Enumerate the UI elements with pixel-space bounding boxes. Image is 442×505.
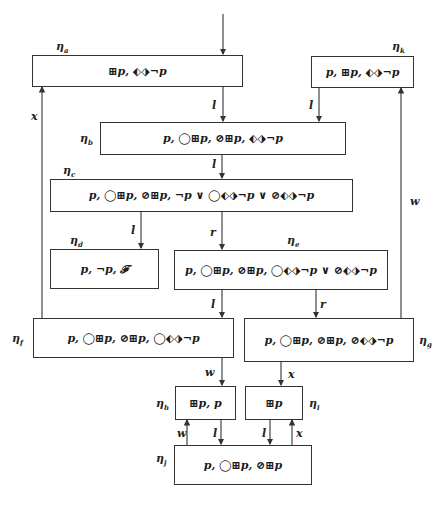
edge-label-e-f: l bbox=[211, 298, 215, 311]
node-j: p, ◯⊞p, ⊘⊞p bbox=[174, 445, 312, 485]
edge-label-a-b: l bbox=[212, 99, 216, 112]
node-d-formula: p, ¬p, 𝓕 bbox=[81, 263, 129, 276]
node-g-label: ηg bbox=[419, 334, 432, 349]
edge-label-b-c: l bbox=[212, 158, 216, 171]
node-a-formula: ⊞p, ⬖⬗¬p bbox=[108, 65, 166, 78]
edge-label-j-h: w bbox=[177, 427, 186, 440]
node-j-label: ηj bbox=[156, 452, 167, 467]
edge-label-g-k: w bbox=[410, 195, 419, 208]
node-g-formula: p, ◯⊞p, ⊘⊞p, ⊘⬖⬗¬p bbox=[264, 334, 393, 347]
edge-label-i-j: l bbox=[262, 427, 266, 440]
node-j-formula: p, ◯⊞p, ⊘⊞p bbox=[204, 459, 282, 472]
node-b-label: ηb bbox=[80, 132, 93, 147]
edge-label-j-i: x bbox=[296, 427, 303, 440]
node-a: ⊞p, ⬖⬗¬p bbox=[32, 55, 243, 87]
node-k-formula: p, ⊞p, ⬖⬗¬p bbox=[326, 66, 400, 79]
node-f-formula: p, ◯⊞p, ⊘⊞p, ◯⬖⬗¬p bbox=[67, 332, 199, 345]
node-i: ⊞p bbox=[245, 386, 303, 420]
node-e-formula: p, ◯⊞p, ⊘⊞p, ◯⬖⬗¬p ∨ ⊘⬖⬗¬p bbox=[185, 264, 377, 277]
edge-label-c-e: r bbox=[210, 226, 216, 239]
node-d: p, ¬p, 𝓕 bbox=[50, 249, 159, 289]
node-c-label: ηc bbox=[63, 164, 75, 179]
node-f-label: ηf bbox=[12, 332, 23, 347]
node-i-label: ηi bbox=[309, 397, 320, 412]
node-e-label: ηe bbox=[287, 234, 299, 249]
node-e: p, ◯⊞p, ⊘⊞p, ◯⬖⬗¬p ∨ ⊘⬖⬗¬p bbox=[174, 250, 388, 290]
edge-label-k-b: l bbox=[309, 99, 313, 112]
node-k: p, ⊞p, ⬖⬗¬p bbox=[311, 56, 414, 88]
node-h: ⊞p, p bbox=[175, 386, 236, 420]
node-a-label: ηa bbox=[56, 40, 69, 55]
node-b-formula: p, ◯⊞p, ⊘⊞p, ⬖⬗¬p bbox=[163, 132, 283, 145]
node-c-formula: p, ◯⊞p, ⊘⊞p, ¬p ∨ ◯⬖⬗¬p ∨ ⊘⬖⬗¬p bbox=[89, 189, 314, 202]
node-h-label: ηh bbox=[156, 397, 169, 412]
node-c: p, ◯⊞p, ⊘⊞p, ¬p ∨ ◯⬖⬗¬p ∨ ⊘⬖⬗¬p bbox=[50, 179, 353, 212]
edge-label-g-i: x bbox=[288, 368, 295, 381]
node-g: p, ◯⊞p, ⊘⊞p, ⊘⬖⬗¬p bbox=[244, 318, 414, 362]
edge-label-f-a: x bbox=[31, 110, 38, 123]
edge-label-e-g: r bbox=[320, 298, 326, 311]
node-h-formula: ⊞p, p bbox=[189, 397, 221, 410]
node-f: p, ◯⊞p, ⊘⊞p, ◯⬖⬗¬p bbox=[33, 318, 234, 358]
node-b: p, ◯⊞p, ⊘⊞p, ⬖⬗¬p bbox=[100, 122, 346, 155]
node-i-formula: ⊞p bbox=[266, 397, 283, 410]
edge-label-c-d: l bbox=[131, 224, 135, 237]
node-k-label: ηk bbox=[392, 40, 405, 55]
edge-label-h-j: l bbox=[213, 427, 217, 440]
edge-label-f-h: w bbox=[205, 366, 214, 379]
node-d-label: ηd bbox=[70, 234, 83, 249]
